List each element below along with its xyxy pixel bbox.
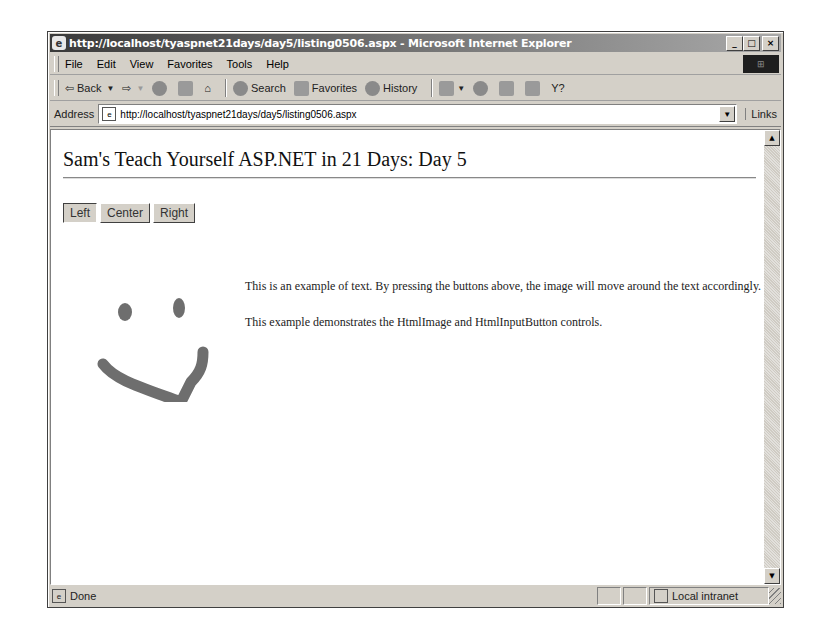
- mail-icon: [439, 81, 454, 96]
- toolbar-grip[interactable]: [54, 80, 59, 96]
- menu-favorites[interactable]: Favorites: [167, 58, 212, 70]
- resize-grip[interactable]: [769, 588, 781, 604]
- address-url[interactable]: http://localhost/tyaspnet21days/day5/lis…: [120, 109, 356, 120]
- paragraph-2: This example demonstrates the HtmlImage …: [245, 314, 780, 331]
- address-label: Address: [54, 108, 94, 120]
- links-button[interactable]: Links: [745, 108, 777, 120]
- page-heading: Sam's Teach Yourself ASP.NET in 21 Days:…: [63, 148, 756, 171]
- back-button[interactable]: ⇦Back▼: [65, 82, 114, 95]
- print-button[interactable]: [473, 81, 491, 96]
- browser-window: e http://localhost/tyaspnet21days/day5/l…: [47, 31, 784, 608]
- title-bar[interactable]: e http://localhost/tyaspnet21days/day5/l…: [50, 34, 781, 52]
- history-button[interactable]: History: [365, 81, 417, 96]
- status-page-icon: e: [52, 589, 66, 603]
- favorites-icon: [294, 81, 309, 96]
- page-icon: e: [102, 107, 116, 121]
- menu-file[interactable]: File: [65, 58, 83, 70]
- toolbar-separator: [431, 79, 433, 97]
- back-dropdown-icon[interactable]: ▼: [106, 84, 114, 93]
- menu-bar: File Edit View Favorites Tools Help ⊞: [50, 54, 781, 75]
- edit-icon: [499, 81, 514, 96]
- status-bar: e Done Local intranet: [50, 587, 781, 605]
- edit-button[interactable]: [499, 81, 517, 96]
- status-text: Done: [70, 590, 96, 602]
- forward-button[interactable]: ⇨▼: [122, 82, 144, 95]
- refresh-button[interactable]: [178, 81, 196, 96]
- search-icon: [233, 81, 248, 96]
- status-pane: [597, 587, 621, 605]
- mail-dropdown-icon[interactable]: ▼: [457, 84, 465, 93]
- scroll-down-button[interactable]: ▼: [764, 568, 780, 584]
- address-input[interactable]: e http://localhost/tyaspnet21days/day5/l…: [98, 104, 737, 124]
- address-bar: Address e http://localhost/tyaspnet21day…: [50, 102, 781, 127]
- favorites-button[interactable]: Favorites: [294, 81, 357, 96]
- back-arrow-icon: ⇦: [65, 82, 74, 95]
- messenger-button[interactable]: Y?: [551, 82, 564, 94]
- toolbar-separator: [225, 79, 227, 97]
- windows-logo-icon: ⊞: [743, 55, 779, 73]
- menu-tools[interactable]: Tools: [227, 58, 253, 70]
- left-button[interactable]: Left: [63, 203, 97, 223]
- discuss-button[interactable]: [525, 81, 543, 96]
- intranet-icon: [654, 589, 668, 603]
- home-button[interactable]: ⌂: [204, 82, 211, 94]
- right-button[interactable]: Right: [153, 203, 195, 223]
- discuss-icon: [525, 81, 540, 96]
- close-button[interactable]: ×: [762, 36, 779, 51]
- scroll-up-button[interactable]: ▲: [764, 130, 780, 146]
- security-zone: Local intranet: [649, 587, 769, 605]
- menu-view[interactable]: View: [130, 58, 154, 70]
- smiley-face-image: [95, 272, 225, 402]
- home-icon: ⌂: [204, 82, 211, 94]
- ie-page-icon: e: [52, 36, 66, 50]
- page-content: Sam's Teach Yourself ASP.NET in 21 Days:…: [50, 129, 781, 585]
- stop-button[interactable]: [152, 81, 170, 96]
- refresh-icon: [178, 81, 193, 96]
- status-pane: [623, 587, 647, 605]
- vertical-scrollbar[interactable]: ▲ ▼: [764, 130, 780, 584]
- alignment-buttons: Left Center Right: [63, 203, 756, 223]
- body-text: This is an example of text. By pressing …: [245, 278, 780, 350]
- search-button[interactable]: Search: [233, 81, 286, 96]
- standard-toolbar: ⇦Back▼ ⇨▼ ⌂ Search Favorites History ▼ Y…: [50, 76, 781, 101]
- window-title: http://localhost/tyaspnet21days/day5/lis…: [69, 37, 726, 50]
- zone-label: Local intranet: [672, 590, 738, 602]
- toolbar-grip[interactable]: [54, 56, 59, 72]
- center-button[interactable]: Center: [100, 203, 150, 223]
- print-icon: [473, 81, 488, 96]
- menu-help[interactable]: Help: [266, 58, 289, 70]
- minimize-button[interactable]: _: [726, 36, 743, 51]
- heading-divider: [63, 177, 756, 179]
- messenger-icon: Y?: [551, 82, 564, 94]
- address-dropdown-button[interactable]: ▼: [719, 106, 735, 122]
- forward-arrow-icon: ⇨: [122, 82, 131, 95]
- history-icon: [365, 81, 380, 96]
- maximize-button[interactable]: □: [743, 36, 760, 51]
- forward-dropdown-icon[interactable]: ▼: [136, 84, 144, 93]
- mail-button[interactable]: ▼: [439, 81, 465, 96]
- paragraph-1: This is an example of text. By pressing …: [245, 278, 780, 295]
- stop-icon: [152, 81, 167, 96]
- menu-edit[interactable]: Edit: [97, 58, 116, 70]
